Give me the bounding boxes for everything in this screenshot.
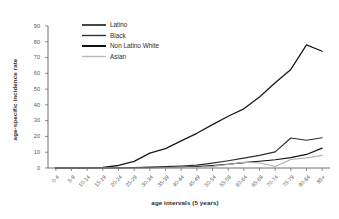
y-tick-label: 60 [24,70,40,76]
legend-label-non-latino-white: Non Latino White [110,42,159,49]
y-tick-label: 70 [24,54,40,60]
legend-label-asian: Asian [110,53,126,60]
y-tick-label: 0 [24,165,40,171]
y-tick-label: 40 [24,102,40,108]
y-tick-label: 90 [24,23,40,29]
data-series-group [56,45,322,168]
y-tick-label: 80 [24,39,40,45]
legend-label-latino: Latino [110,21,127,28]
series-line-latino [56,45,322,168]
legend-swatch-group [82,25,106,57]
y-tick-label: 30 [24,117,40,123]
x-axis-title: age intervals (5 years) [60,199,310,206]
y-axis-title: age-specific incidence rate [11,40,18,160]
y-tick-label: 20 [24,133,40,139]
chart-container: 0102030405060708090 0-45-910-1415-1920-2… [0,0,339,219]
y-tick-label: 50 [24,86,40,92]
y-tick-label: 10 [24,149,40,155]
legend-label-black: Black [110,32,126,39]
